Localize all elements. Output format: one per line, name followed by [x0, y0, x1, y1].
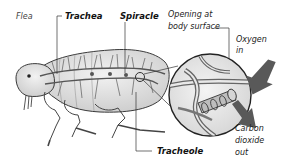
label-co2-line1: Carbon — [235, 124, 264, 134]
label-co2-line3: out — [235, 148, 248, 158]
label-opening-line1: Opening at — [168, 10, 212, 20]
label-spiracle: Spiracle — [120, 11, 159, 21]
label-oxygen-line2: in — [236, 46, 243, 56]
label-oxygen-line1: Oxygen — [236, 35, 267, 45]
label-trachea: Trachea — [65, 11, 102, 21]
label-tracheole: Tracheole — [157, 146, 203, 156]
label-opening-line2: body surface — [168, 22, 220, 32]
flea-respiratory-diagram: Flea Trachea Spiracle Opening at body su… — [0, 0, 281, 166]
eye — [27, 74, 31, 78]
label-co2-line2: dioxide — [235, 136, 264, 146]
flea-body — [16, 50, 169, 147]
label-flea: Flea — [16, 12, 33, 22]
